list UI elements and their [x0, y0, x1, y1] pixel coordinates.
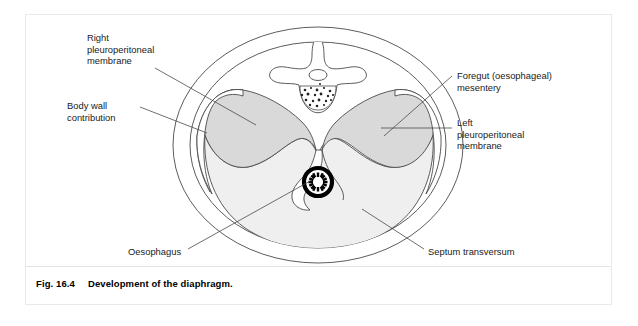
figure-container: Right pleuroperitoneal membrane Body wal…: [0, 0, 638, 326]
label-oesophagus: Oesophagus: [128, 246, 181, 258]
label-right-pleuroperitoneal-membrane: Right pleuroperitoneal membrane: [87, 32, 154, 67]
label-left-pleuroperitoneal-membrane: Left pleuroperitoneal membrane: [457, 117, 524, 152]
label-body-wall-contribution: Body wall contribution: [67, 100, 115, 123]
figure-caption-text: Development of the diaphragm.: [88, 278, 233, 289]
vertebral-foramen: [309, 70, 327, 81]
label-foregut-mesentery: Foregut (oesophageal) mesentery: [457, 70, 552, 93]
figure-caption: Fig. 16.4Development of the diaphragm.: [36, 278, 233, 289]
figure-number: Fig. 16.4: [36, 278, 75, 289]
label-septum-transversum: Septum transversum: [428, 246, 515, 258]
